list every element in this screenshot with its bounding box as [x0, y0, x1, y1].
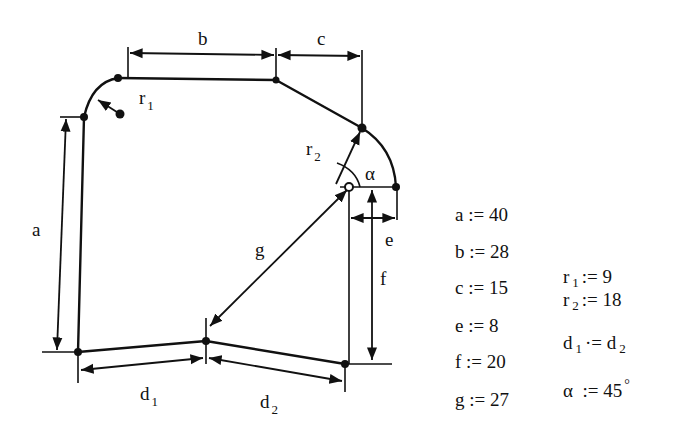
var-f: f := 20: [455, 352, 506, 371]
label-a: a: [32, 219, 41, 240]
label-e: e: [385, 229, 393, 250]
var-d-equality: d1·= d2: [563, 333, 629, 355]
label-r1: r1: [139, 87, 154, 113]
dim-g: [210, 190, 347, 326]
dim-b: [130, 53, 274, 55]
label-alpha: α: [365, 163, 375, 184]
label-r2: r2: [306, 138, 321, 164]
radius-r2: [336, 132, 360, 184]
var-alpha: α := 45°: [563, 378, 630, 400]
label-d2: d2: [260, 391, 278, 417]
dim-d1: [81, 358, 203, 370]
var-b: b := 28: [455, 242, 509, 261]
dim-a: [57, 119, 66, 350]
var-a: a := 40: [455, 205, 508, 224]
var-g: g := 27: [455, 390, 509, 409]
var-e: e := 8: [455, 316, 498, 335]
var-c: c := 15: [455, 278, 508, 297]
dimension-arrows: [57, 53, 395, 381]
node-points: [74, 74, 400, 368]
dim-c: [278, 55, 360, 56]
label-g: g: [255, 239, 265, 260]
var-r2: r2:= 18: [563, 290, 622, 312]
label-d1: d1: [140, 383, 158, 409]
label-f: f: [380, 268, 387, 289]
geometry-diagram: b c a g f e α r1 r2 d1 d2: [0, 0, 677, 430]
var-r1: r1:= 9: [563, 267, 612, 289]
label-b: b: [198, 28, 208, 49]
dim-d2: [209, 358, 342, 381]
label-c: c: [317, 28, 325, 49]
construction-lines: [42, 47, 397, 392]
